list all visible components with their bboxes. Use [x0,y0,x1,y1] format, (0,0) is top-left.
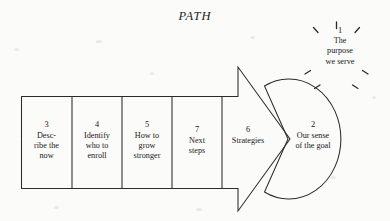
step-text: Our sense of the goal [279,131,347,152]
step-number: 6 [222,124,274,135]
burst-ray [353,85,359,89]
step-number: 5 [122,119,172,130]
burst-ray [363,71,369,75]
step-number: 4 [72,119,122,130]
burst-ray [305,71,311,75]
page-title: PATH [0,9,390,24]
step-number: 7 [172,124,222,135]
step-number: 3 [21,119,72,130]
burst-label: 1 The purpose we serve [300,26,380,67]
step-text: Desc- ribe the now [21,131,72,162]
circle-label: 2 Our sense of the goal [279,119,347,151]
step-box-7: 7 Next steps [172,124,222,156]
step-text: Next steps [172,136,222,157]
arrow-head-label: 6 Strategies [222,124,274,146]
diagram-canvas: PATH 1 The purpose we serve 3 Desc- ribe… [0,0,390,221]
burst-text: The purpose we serve [300,36,380,67]
step-box-4: 4 Identify who to enroll [72,119,122,161]
step-text: How to grow stronger [122,131,172,162]
step-number: 2 [279,119,347,130]
burst-number: 1 [300,26,380,36]
step-box-3: 3 Desc- ribe the now [21,119,72,161]
step-text: Strategies [222,136,274,146]
step-box-5: 5 How to grow stronger [122,119,172,161]
step-text: Identify who to enroll [72,131,122,162]
